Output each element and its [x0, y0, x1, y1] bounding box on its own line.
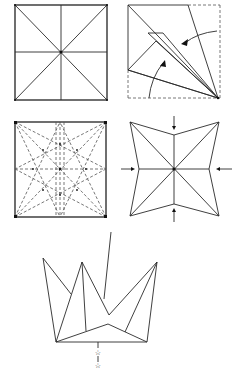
arrow-left-icon: [216, 167, 232, 171]
arrow-down-icon: [172, 116, 176, 130]
arrow-up-icon: [172, 208, 176, 222]
arrow-right-icon: [121, 167, 135, 171]
star-pendant-icon: ☆ ☆: [95, 349, 101, 370]
step-3-diagram: [14, 121, 107, 218]
fold-arrow-upper: [185, 31, 217, 43]
svg-text:☆: ☆: [95, 349, 101, 357]
svg-text:☆: ☆: [95, 362, 101, 370]
step-5-diagram: ☆ ☆: [43, 232, 157, 370]
stick: [104, 232, 111, 299]
step-4-diagram: [121, 116, 232, 222]
step-2-diagram: [128, 5, 220, 99]
step-1-diagram: [14, 4, 108, 101]
